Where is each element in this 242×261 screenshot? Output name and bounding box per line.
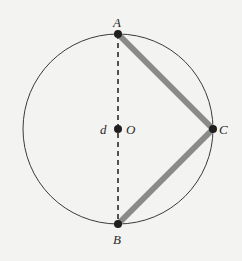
- point-b: [114, 220, 122, 228]
- label-d: d: [100, 122, 107, 137]
- circle-diagram: A B C O d: [0, 0, 242, 261]
- label-b: B: [113, 232, 121, 247]
- point-c: [209, 125, 217, 133]
- label-c: C: [219, 122, 228, 137]
- label-o: O: [126, 122, 136, 137]
- point-a: [114, 30, 122, 38]
- point-o-center: [114, 125, 122, 133]
- chord-ac: [118, 34, 213, 129]
- chord-cb: [118, 129, 213, 224]
- label-a: A: [112, 15, 121, 30]
